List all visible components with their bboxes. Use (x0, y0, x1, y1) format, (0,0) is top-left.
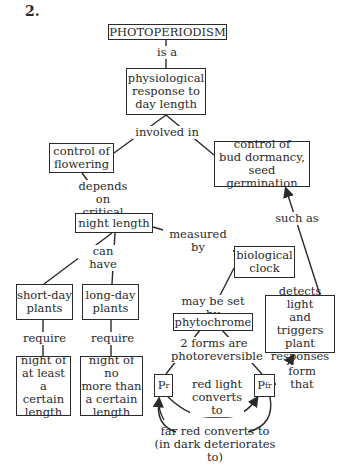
pr-sub: r (165, 379, 169, 392)
link-require-long: require (90, 332, 134, 345)
node-photoperiodism: PHOTOPERIODISM (108, 24, 227, 40)
link-far-red-converts-to: far red converts to (in dark deteriorate… (148, 425, 282, 464)
pfr-base: P (257, 379, 265, 392)
node-pr: Pr (154, 374, 173, 397)
node-pfr: Pfr (254, 374, 275, 397)
node-night-length: night length (75, 213, 153, 233)
node-short-day-plants: short-day plants (16, 284, 73, 320)
node-detects-light: detects light and triggers plant respons… (265, 295, 335, 353)
node-night-at-least: night of at least a certain length (16, 356, 71, 416)
node-physiological-response: physiological response to day length (126, 68, 206, 115)
link-measured-by: measured by (163, 228, 233, 254)
node-control-of-flowering: control of flowering (49, 143, 114, 173)
node-night-no-more: night of no more than a certain length (80, 356, 143, 416)
node-long-day-plants: long-day plants (82, 284, 139, 320)
link-two-forms-photoreversible: 2 forms are photoreversible (170, 337, 258, 363)
node-phytochrome: phytochrome (173, 313, 253, 331)
link-require-short: require (22, 332, 66, 345)
pfr-sub: fr (265, 379, 272, 392)
pr-base: P (158, 379, 166, 392)
link-such-as: such as (274, 212, 320, 225)
link-red-light-converts-to: red light converts to (190, 378, 244, 417)
node-biological-clock: biological clock (234, 246, 295, 278)
link-can-have: can have (78, 245, 128, 271)
link-is-a: is a (152, 46, 182, 59)
link-form-that: form that (276, 365, 328, 391)
node-control-of-bud-dormancy: control of bud dormancy, seed germinatio… (214, 141, 310, 187)
link-involved-in: involved in (133, 126, 201, 139)
